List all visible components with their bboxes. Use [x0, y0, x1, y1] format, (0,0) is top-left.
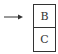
stack-boxes: B C: [33, 4, 56, 52]
cell-label: B: [40, 10, 48, 23]
pointer-arrow-icon: [4, 12, 24, 22]
cell-label: C: [40, 33, 48, 46]
stack-cell-b: B: [33, 4, 56, 28]
stack-cell-c: C: [33, 28, 56, 52]
